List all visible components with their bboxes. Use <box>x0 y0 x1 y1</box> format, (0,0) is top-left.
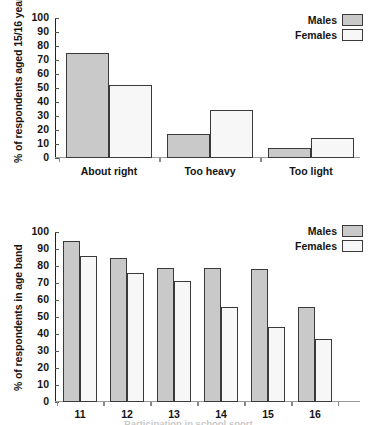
bar-15-females <box>268 327 285 402</box>
bar-13-females <box>174 281 191 402</box>
bar-too-light-females <box>311 138 354 158</box>
x-tick-mark <box>160 158 161 162</box>
chart2-legend-label-males: Males <box>308 225 337 237</box>
y-tick-mark <box>55 351 59 352</box>
y-tick-mark <box>55 317 59 318</box>
x-tick-mark <box>198 402 199 406</box>
chart1-legend-label-males: Males <box>308 14 337 26</box>
y-tick-mark <box>55 74 59 75</box>
y-tick-mark <box>55 32 59 33</box>
x-tick-mark <box>104 402 105 406</box>
y-tick-label: 10 <box>37 137 49 150</box>
y-tick-label: 50 <box>37 310 49 323</box>
chart2-legend-label-females: Females <box>295 240 337 252</box>
bar-too-heavy-females <box>210 110 253 158</box>
bar-too-heavy-males <box>167 134 210 158</box>
y-tick-label: 80 <box>37 39 49 52</box>
chart1-legend: Males Females <box>255 14 363 41</box>
y-tick-mark <box>55 368 59 369</box>
chart1-legend-label-females: Females <box>295 29 337 41</box>
y-tick-mark <box>55 266 59 267</box>
y-tick-mark <box>55 334 59 335</box>
y-tick-label: 60 <box>37 67 49 80</box>
x-tick-mark <box>292 402 293 406</box>
y-tick-label: 30 <box>37 109 49 122</box>
y-tick-mark <box>55 130 59 131</box>
x-tick-mark <box>261 158 262 162</box>
chart-respondents-aged-15-16: % of respondents aged 15/16 years 010203… <box>0 0 377 200</box>
bar-16-females <box>315 339 332 402</box>
y-tick-mark <box>55 232 59 233</box>
y-tick-label: 10 <box>37 378 49 391</box>
y-tick-mark <box>55 102 59 103</box>
y-tick-mark <box>55 60 59 61</box>
bar-15-males <box>251 269 268 402</box>
y-tick-mark <box>55 116 59 117</box>
chart2-legend-item-males: Males <box>255 225 363 237</box>
y-tick-label: 100 <box>31 11 49 24</box>
bottom-caption-clipped: Participation in school sport <box>0 418 377 425</box>
bar-14-females <box>221 307 238 402</box>
y-tick-label: 40 <box>37 327 49 340</box>
y-tick-mark <box>55 283 59 284</box>
y-tick-label: 20 <box>37 123 49 136</box>
chart-respondents-in-age-band: % of respondents in age band 01020304050… <box>0 205 377 423</box>
y-tick-label: 40 <box>37 95 49 108</box>
chart2-legend-swatch-males <box>342 225 363 237</box>
y-tick-mark <box>55 300 59 301</box>
x-tick-mark <box>245 402 246 406</box>
bar-too-light-males <box>268 148 311 158</box>
chart2-legend: Males Females <box>255 225 363 252</box>
bar-about-right-males <box>66 53 109 158</box>
chart1-legend-swatch-males <box>342 14 363 26</box>
y-tick-label: 90 <box>37 25 49 38</box>
x-tick-label: About right <box>81 165 138 177</box>
chart2-legend-item-females: Females <box>255 240 363 252</box>
chart1-legend-item-females: Females <box>255 29 363 41</box>
bar-about-right-females <box>109 85 152 158</box>
y-tick-mark <box>55 249 59 250</box>
bar-13-males <box>157 268 174 402</box>
y-tick-label: 70 <box>37 276 49 289</box>
y-tick-label: 0 <box>43 395 49 408</box>
y-tick-label: 20 <box>37 361 49 374</box>
chart1-y-axis-title: % of respondents aged 15/16 years <box>12 0 24 163</box>
y-tick-mark <box>55 385 59 386</box>
x-tick-mark <box>338 402 339 406</box>
bar-16-males <box>298 307 315 402</box>
x-tick-mark <box>59 158 60 162</box>
y-tick-label: 30 <box>37 344 49 357</box>
chart1-legend-item-males: Males <box>255 14 363 26</box>
chart2-y-axis-title: % of respondents in age band <box>12 244 24 391</box>
y-tick-label: 90 <box>37 242 49 255</box>
y-tick-mark <box>55 18 59 19</box>
y-tick-mark <box>55 144 59 145</box>
chart1-legend-swatch-females <box>342 29 363 41</box>
bar-12-males <box>110 258 127 403</box>
chart2-plot-area: 0102030405060708090100111213141516 <box>55 232 360 402</box>
x-tick-label: Too heavy <box>184 165 235 177</box>
bar-14-males <box>204 268 221 402</box>
y-tick-mark <box>55 46 59 47</box>
bar-12-females <box>127 273 144 402</box>
x-tick-mark <box>57 402 58 406</box>
chart2-legend-swatch-females <box>342 240 363 252</box>
x-tick-mark <box>151 402 152 406</box>
y-tick-mark <box>55 88 59 89</box>
y-tick-label: 100 <box>31 225 49 238</box>
y-tick-label: 50 <box>37 81 49 94</box>
y-tick-label: 0 <box>43 151 49 164</box>
y-tick-label: 60 <box>37 293 49 306</box>
bar-11-females <box>80 256 97 402</box>
x-tick-label: Too light <box>289 165 333 177</box>
bar-11-males <box>63 241 80 403</box>
y-tick-label: 70 <box>37 53 49 66</box>
y-tick-label: 80 <box>37 259 49 272</box>
